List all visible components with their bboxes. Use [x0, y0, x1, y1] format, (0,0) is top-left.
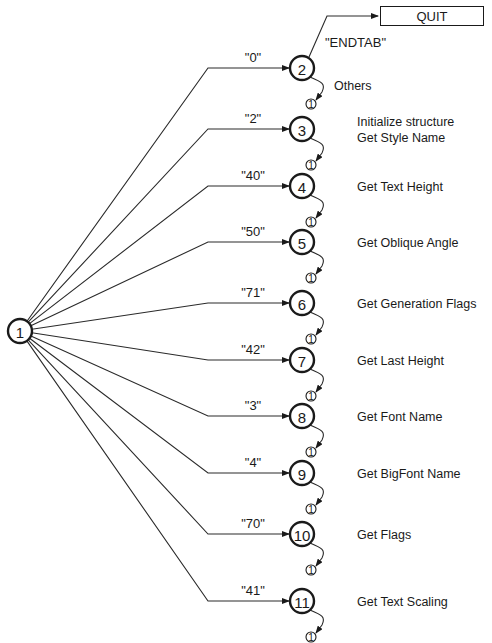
return-node-label: 1	[308, 273, 314, 284]
edge-code-9: "41"	[241, 583, 265, 598]
action-get-style-name: Get Style Name	[357, 130, 445, 146]
return-node-label: 1	[308, 160, 314, 171]
loop-edge-9	[310, 482, 324, 505]
edge-to-node-10	[28, 340, 289, 534]
action-get-text-height: Get Text Height	[357, 179, 443, 195]
action-get-bigfont-name: Get BigFont Name	[357, 466, 461, 482]
return-node-label: 1	[308, 99, 314, 110]
loop-edge-4	[310, 195, 324, 218]
action-initialize-structure: Initialize structure	[357, 114, 454, 130]
loop-edge-7	[310, 369, 324, 392]
state-node-label: 10	[294, 527, 311, 544]
edge-code-8: "70"	[241, 516, 265, 531]
loop-edge-8	[310, 425, 324, 448]
return-node-label: 1	[308, 447, 314, 458]
edge-code-0: "0"	[245, 50, 261, 65]
action-get-oblique-angle: Get Oblique Angle	[357, 235, 458, 251]
state-node-label: 2	[298, 61, 306, 78]
state-node-label: 6	[298, 296, 306, 313]
quit-box: QUIT	[380, 6, 484, 26]
action-get-last-height: Get Last Height	[357, 353, 444, 369]
action-get-generation-flags: Get Generation Flags	[357, 296, 477, 312]
return-node-label: 1	[308, 217, 314, 228]
return-node-label: 1	[308, 504, 314, 515]
nodes-group: 12131415161718191101111	[8, 56, 316, 643]
return-node-label: 1	[308, 565, 314, 576]
state-node-label: 9	[298, 466, 306, 483]
loop-edge-2	[310, 77, 324, 100]
edge-code-4: "71"	[241, 285, 265, 300]
edge-code-2: "40"	[241, 168, 265, 183]
edge-code-5: "42"	[241, 342, 265, 357]
return-node-label: 1	[308, 391, 314, 402]
loop-edge-5	[310, 251, 324, 274]
action-get-text-scaling: Get Text Scaling	[357, 594, 448, 610]
state-node-label: 5	[298, 235, 306, 252]
edge-to-node-2	[27, 68, 289, 321]
loop-edge-11	[310, 610, 324, 633]
others-label: Others	[334, 79, 372, 93]
state-node-label: 11	[294, 594, 310, 611]
action-get-flags: Get Flags	[357, 527, 411, 543]
state-diagram: 12131415161718191101111	[0, 0, 492, 643]
edge-code-3: "50"	[241, 224, 265, 239]
return-node-label: 1	[308, 632, 314, 643]
quit-label: QUIT	[416, 9, 447, 24]
edge-code-6: "3"	[245, 398, 261, 413]
loop-edge-10	[310, 543, 324, 566]
state-node-label: 4	[298, 179, 306, 196]
endtab-label: "ENDTAB"	[325, 35, 386, 50]
state-node-label: 7	[298, 353, 306, 370]
edge-code-1: "2"	[245, 111, 261, 126]
edge-to-node-5	[31, 242, 289, 326]
edges-group	[27, 68, 324, 633]
state-node-label: 8	[298, 409, 306, 426]
loop-edge-3	[310, 138, 324, 161]
start-node-label: 1	[16, 324, 24, 341]
edge-to-node-11	[27, 341, 289, 601]
state-node-label: 3	[298, 122, 306, 139]
edge-code-7: "4"	[245, 455, 261, 470]
action-get-font-name: Get Font Name	[357, 409, 442, 425]
return-node-label: 1	[308, 334, 314, 345]
loop-edge-6	[310, 312, 324, 335]
